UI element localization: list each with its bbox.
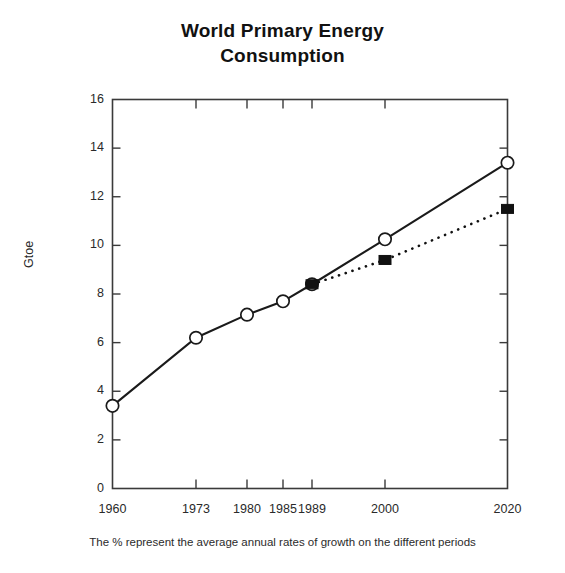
y-tick-label: 2 <box>70 432 104 446</box>
y-tick-label: 6 <box>70 335 104 349</box>
x-tick-label: 1985 <box>269 502 297 516</box>
y-tick-label: 0 <box>70 481 104 495</box>
data-point-low-scenario <box>306 280 318 289</box>
data-point-high-scenario <box>277 295 289 307</box>
x-tick-label: 1973 <box>182 502 210 516</box>
data-series-layer <box>106 157 513 413</box>
y-tick-label: 12 <box>70 189 104 203</box>
x-tick-label: 1960 <box>99 502 127 516</box>
x-axis-ticks <box>196 100 385 489</box>
y-tick-label: 8 <box>70 286 104 300</box>
data-point-high-scenario <box>501 157 513 169</box>
plot-frame <box>113 100 508 489</box>
y-tick-label: 16 <box>70 92 104 106</box>
y-tick-label: 10 <box>70 237 104 251</box>
x-tick-label: 1989 <box>298 502 326 516</box>
data-point-low-scenario <box>502 204 514 213</box>
y-axis-ticks <box>113 148 508 440</box>
data-point-low-scenario <box>379 255 391 264</box>
x-tick-label: 1980 <box>233 502 261 516</box>
chart-caption: The % represent the average annual rates… <box>0 536 565 548</box>
data-point-high-scenario <box>379 233 391 245</box>
data-point-high-scenario <box>106 400 118 412</box>
x-tick-label: 2020 <box>494 502 522 516</box>
data-point-high-scenario <box>241 308 253 320</box>
y-tick-label: 4 <box>70 383 104 397</box>
series-line-low-scenario <box>312 209 508 284</box>
data-point-high-scenario <box>190 332 202 344</box>
chart-figure: World Primary Energy Consumption Gtoe 02… <box>0 0 565 573</box>
y-tick-label: 14 <box>70 140 104 154</box>
x-tick-label: 2000 <box>371 502 399 516</box>
